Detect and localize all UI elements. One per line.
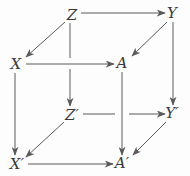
node-label-Y-prime: Y′: [165, 106, 179, 121]
edge-Y-to-A: [132, 22, 167, 56]
node-label-Y: Y: [167, 6, 177, 21]
edge-Z-to-X: [26, 22, 65, 57]
commutative-cube-diagram: Z Y X A Z′ Y′ X′ A′: [0, 0, 190, 176]
diagram-edges-canvas: [0, 0, 190, 176]
edge-Zp-to-Xp: [26, 122, 64, 157]
node-label-Z: Z: [67, 8, 78, 23]
edge-Yp-to-Ap: [133, 122, 166, 155]
node-label-Z-prime: Z′: [65, 108, 79, 123]
node-label-X: X: [11, 57, 22, 72]
node-label-X-prime: X′: [10, 157, 25, 172]
node-label-A-prime: A′: [115, 156, 130, 171]
node-label-A: A: [116, 56, 127, 71]
